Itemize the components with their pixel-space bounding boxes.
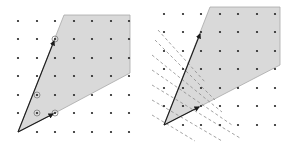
right-panel — [152, 7, 280, 141]
left-panel — [17, 15, 130, 133]
right-cone-region — [164, 7, 280, 125]
lattice-cone-figure — [0, 0, 293, 143]
